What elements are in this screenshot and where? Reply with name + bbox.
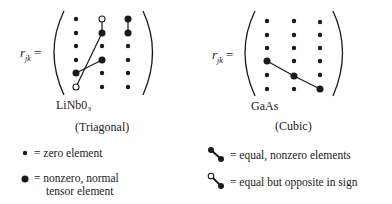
legend-nonzero-text-2: tensor element [46,185,113,197]
zero-element-dot [100,85,104,89]
equal-link [294,76,320,89]
right-equals: = [226,47,233,62]
nonzero-element-dot [99,57,106,64]
legend-equal-text: = equal, nonzero elements [230,149,351,161]
nonzero-element-dot [125,16,132,23]
zero-element-dot [318,33,322,37]
zero-element-dot [74,17,78,21]
zero-element-dot [265,87,269,91]
opposite-sign-dot [73,84,79,90]
zero-element-dot [126,58,130,62]
zero-element-dot [126,44,130,48]
nonzero-element-dot [264,58,271,65]
zero-element-dot [100,44,104,48]
left-paren-close [143,11,153,95]
zero-element-dot [265,19,269,23]
zero-element-dot [100,71,104,75]
left-crystal-class: (Triagonal) [75,121,129,134]
zero-element-dot [318,73,322,77]
equal-link [76,60,102,73]
zero-element-dot [265,33,269,37]
zero-element-dot [292,33,296,37]
zero-element-dot [318,20,322,24]
zero-element-dot [318,59,322,63]
zero-element-dot [126,85,130,89]
right-matrix [245,11,343,96]
left-material-label: LiNb0₃ [56,99,92,112]
nonzero-element-dot [291,73,298,80]
zero-element-dot [74,58,78,62]
nonzero-element-dot [73,70,80,77]
opposite-link-legend-icon [208,173,224,189]
left-matrix [54,11,153,95]
legend-nonzero-text-1: = nonzero, normal [34,172,119,184]
left-rjk-label: rjk = [20,46,41,65]
zero-element-dot [292,46,296,50]
zero-element-dot [74,44,78,48]
zero-element-dot [265,73,269,77]
zero-element-dot [74,31,78,35]
right-material-label: GaAs [251,100,278,113]
opposite-link [76,33,102,87]
nonzero-element-dot [99,30,106,37]
right-rjk-label: rjk = [212,48,233,67]
zero-element-dot [292,19,296,23]
legend-zero-text: = zero element [34,147,102,159]
nonzero-element-legend-icon [22,176,29,183]
legend-opposite-text: = equal but opposite in sign [230,176,358,188]
zero-element-dot [126,71,130,75]
right-crystal-class: (Cubic) [275,120,312,133]
right-rjk-subscript: jk [217,56,223,65]
nonzero-element-dot [317,86,324,93]
left-paren-open [54,11,64,95]
right-paren-open [245,11,255,96]
nonzero-element-dot [125,30,132,37]
zero-element-dot [265,46,269,50]
zero-element-dot [292,59,296,63]
left-equals: = [34,45,41,60]
equal-link [267,61,294,76]
equal-link-legend-icon [208,147,224,162]
opposite-sign-dot [99,16,105,22]
zero-element-legend-icon [23,151,27,155]
zero-element-dot [318,46,322,50]
right-paren-close [333,11,343,96]
zero-element-dot [292,87,296,91]
left-rjk-subscript: jk [25,54,31,63]
